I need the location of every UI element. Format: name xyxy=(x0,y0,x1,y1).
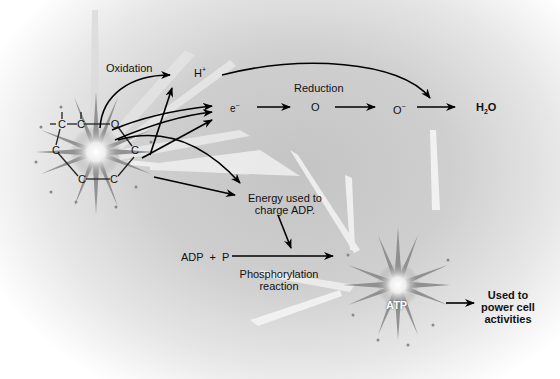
reduction-label: Reduction xyxy=(294,82,344,94)
atp-label: ATP xyxy=(386,299,407,311)
cell-activity-line1: Used to xyxy=(476,289,540,301)
svg-text:C: C xyxy=(52,144,60,156)
svg-text:C: C xyxy=(78,173,86,185)
hydrogen-ion-text: H xyxy=(194,67,202,79)
cell-activity-line3: activities xyxy=(476,313,540,325)
hydrogen-ion-label: H+ xyxy=(194,64,206,79)
atp-burst xyxy=(343,227,450,347)
phosphorylation-label-line2: reaction xyxy=(234,280,324,292)
svg-text:C: C xyxy=(58,118,66,130)
phosphorylation-label-line1: Phosphorylation xyxy=(234,268,324,280)
oxygen-ion-label: O− xyxy=(393,101,406,116)
adp-plus-p-label: ADP + P xyxy=(181,251,229,263)
cell-activity-label: Used to power cell activities xyxy=(476,289,540,325)
oxygen-ion-charge: − xyxy=(402,103,406,110)
energy-label: Energy used to charge ADP. xyxy=(240,192,330,216)
oxidation-label: Oxidation xyxy=(106,62,152,74)
svg-text:C: C xyxy=(77,118,85,130)
svg-text:C: C xyxy=(110,173,118,185)
electron-label: e− xyxy=(230,100,240,115)
water-o-text: O xyxy=(488,101,497,113)
phosphorylation-label: Phosphorylation reaction xyxy=(234,268,324,292)
cell-activity-line2: power cell xyxy=(476,301,540,313)
respiration-diagram: C C O C C C C xyxy=(0,0,560,379)
electron-charge: − xyxy=(236,102,240,109)
energy-down-arrow xyxy=(278,215,291,248)
water-label: H2O xyxy=(476,101,496,118)
oxygen-label: O xyxy=(311,101,320,113)
svg-text:C: C xyxy=(131,144,139,156)
energy-label-line2: charge ADP. xyxy=(240,204,330,216)
hydrogen-ion-charge: + xyxy=(202,66,206,73)
energy-label-line1: Energy used to xyxy=(240,192,330,204)
oxygen-ion-text: O xyxy=(393,104,402,116)
water-h-text: H xyxy=(476,101,484,113)
